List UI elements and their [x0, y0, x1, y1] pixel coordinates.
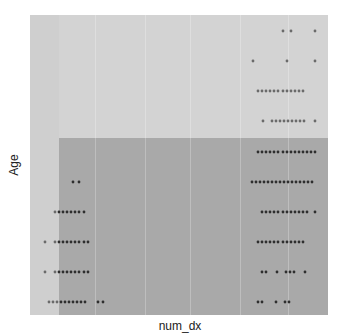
data-point [286, 151, 289, 154]
data-point [269, 241, 272, 244]
data-point [83, 211, 86, 214]
data-point [299, 181, 302, 184]
data-point [269, 90, 272, 93]
data-point [277, 151, 280, 154]
data-point [271, 181, 274, 184]
data-point [279, 120, 282, 123]
data-point [44, 271, 47, 274]
data-point [293, 271, 296, 274]
data-point [74, 271, 77, 274]
data-point [283, 120, 286, 123]
data-point [269, 211, 272, 214]
data-point [72, 181, 75, 184]
data-point [66, 211, 69, 214]
scatter-points [0, 0, 345, 335]
data-point [72, 301, 75, 304]
data-point [285, 271, 288, 274]
x-axis-label: num_dx [159, 319, 202, 333]
data-point [255, 181, 258, 184]
data-point [261, 241, 264, 244]
data-point [78, 211, 81, 214]
data-point [306, 211, 309, 214]
data-point [48, 301, 51, 304]
data-point [64, 301, 67, 304]
data-point [74, 211, 77, 214]
data-point [78, 181, 81, 184]
data-point [269, 151, 272, 154]
data-point [62, 211, 65, 214]
data-point [273, 151, 276, 154]
data-point [54, 271, 57, 274]
data-point [304, 271, 307, 274]
data-point [62, 271, 65, 274]
data-point [257, 301, 260, 304]
data-point [271, 120, 274, 123]
data-point [84, 301, 87, 304]
data-point [275, 301, 278, 304]
data-point [275, 120, 278, 123]
data-point [276, 271, 279, 274]
data-point [257, 90, 260, 93]
data-point [265, 271, 268, 274]
data-point [286, 60, 289, 63]
data-point [302, 90, 305, 93]
data-point [265, 90, 268, 93]
data-point [303, 120, 306, 123]
data-point [56, 301, 59, 304]
data-point [311, 181, 314, 184]
data-point [52, 301, 55, 304]
data-point [257, 151, 260, 154]
data-point [83, 241, 86, 244]
data-point [273, 211, 276, 214]
data-point [289, 271, 292, 274]
data-point [277, 241, 280, 244]
data-point [302, 151, 305, 154]
data-point [261, 211, 264, 214]
data-point [251, 181, 254, 184]
data-point [273, 90, 276, 93]
data-point [279, 181, 282, 184]
data-point [288, 301, 291, 304]
data-point [257, 241, 260, 244]
data-point [265, 241, 268, 244]
data-point [261, 301, 264, 304]
data-point [302, 211, 305, 214]
data-point [97, 301, 100, 304]
data-point [68, 301, 71, 304]
data-point [290, 90, 293, 93]
data-point [87, 241, 90, 244]
data-point [291, 120, 294, 123]
data-point [287, 181, 290, 184]
data-point [294, 211, 297, 214]
data-point [284, 301, 287, 304]
data-point [290, 241, 293, 244]
data-point [273, 241, 276, 244]
data-point [262, 120, 265, 123]
data-point [58, 241, 61, 244]
data-point [78, 241, 81, 244]
data-point [294, 90, 297, 93]
data-point [259, 181, 262, 184]
data-point [44, 241, 47, 244]
data-point [282, 90, 285, 93]
data-point [102, 301, 105, 304]
data-point [314, 211, 317, 214]
data-point [282, 241, 285, 244]
data-point [294, 241, 297, 244]
data-point [286, 90, 289, 93]
y-axis-label: Age [7, 154, 21, 175]
data-point [54, 241, 57, 244]
data-point [294, 151, 297, 154]
data-point [265, 211, 268, 214]
data-point [298, 90, 301, 93]
data-point [298, 211, 301, 214]
data-point [302, 241, 305, 244]
data-point [314, 60, 317, 63]
data-point [252, 60, 255, 63]
data-point [78, 271, 81, 274]
data-point [60, 301, 63, 304]
data-point [66, 271, 69, 274]
data-point [283, 181, 286, 184]
data-point [66, 241, 69, 244]
data-point [263, 181, 266, 184]
